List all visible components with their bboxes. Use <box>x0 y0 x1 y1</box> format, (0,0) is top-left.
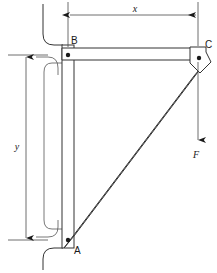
dimension-y: y <box>8 55 48 240</box>
dimension-y-label: y <box>14 141 20 152</box>
bracket-diagram: B A C x y F <box>0 0 217 273</box>
wall-profile <box>36 4 63 270</box>
pivot-dot-b <box>66 53 70 57</box>
joint-label-b: B <box>71 35 78 46</box>
pivot-dot-c <box>197 56 201 60</box>
joint-c-plate <box>190 47 211 73</box>
horizontal-arm-body <box>62 48 203 60</box>
joint-label-a: A <box>74 245 81 256</box>
force-label-f: F <box>192 149 200 160</box>
member-vertical-post <box>62 45 74 248</box>
diagonal-strut-body <box>64 64 204 248</box>
wall-upper-inner-curve-icon <box>36 57 58 75</box>
inner-plate-rounded-edge-icon <box>44 63 62 229</box>
pivot-dots <box>66 53 201 242</box>
pivot-dot-a <box>66 238 70 242</box>
member-horizontal-arm <box>62 48 203 60</box>
wall-lower-inner-curve-icon <box>36 220 58 237</box>
dimension-x: x <box>68 2 198 47</box>
wall-upper-break-icon <box>43 4 63 45</box>
vertical-post-body <box>62 45 74 248</box>
bracket-diagram-canvas: B A C x y F <box>0 0 217 273</box>
wall-lower-break-icon <box>43 248 63 270</box>
joint-c-end-cap <box>190 47 211 73</box>
member-diagonal-strut <box>64 64 204 248</box>
dimension-x-label: x <box>132 3 138 14</box>
joint-label-c: C <box>205 39 212 50</box>
inner-plate-outline <box>44 63 62 229</box>
